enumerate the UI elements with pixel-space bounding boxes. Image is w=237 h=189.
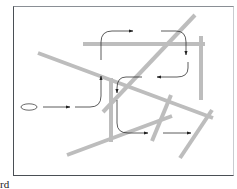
path-diagram [0, 0, 237, 189]
start-node-ellipse [21, 104, 37, 110]
obstacle-bar [103, 15, 195, 112]
obstacles-group [38, 15, 213, 158]
obstacle-bar [180, 110, 212, 158]
route-arrow-segment [157, 62, 188, 77]
obstacle-bar [38, 53, 213, 118]
route-arrow-segment [75, 76, 101, 107]
figure-caption: rd [0, 179, 9, 189]
